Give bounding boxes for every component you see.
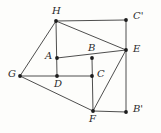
edge-H-Cprime	[56, 20, 126, 21]
vertex-label-b: B	[88, 43, 95, 53]
vertex-label-cp: C'	[133, 11, 143, 21]
vertex-label-e: E	[133, 44, 140, 54]
vertex-dot-a	[55, 56, 59, 60]
edge-H-D	[56, 21, 57, 76]
vertex-dot-h	[54, 19, 58, 23]
vertex-label-c: C	[97, 69, 105, 79]
vertex-label-f: F	[89, 114, 96, 124]
geometry-figure: HC'ABEGDCFB'	[0, 0, 161, 133]
vertex-label-h: H	[52, 6, 61, 16]
vertex-dot-e	[124, 48, 128, 52]
edge-B-F	[92, 58, 93, 111]
vertex-dot-b	[90, 56, 94, 60]
vertex-dot-g	[18, 74, 22, 78]
vertex-dot-cp	[124, 18, 128, 22]
vertex-dot-bp	[124, 110, 128, 114]
vertex-label-d: D	[54, 79, 62, 89]
vertex-label-a: A	[45, 51, 52, 61]
edge-H-G	[20, 21, 56, 76]
vertex-dot-layer	[18, 18, 128, 114]
vertex-label-bp: B'	[133, 104, 143, 114]
vertex-label-g: G	[8, 69, 16, 79]
vertex-dot-c	[90, 74, 94, 78]
edge-E-F	[93, 50, 126, 111]
edge-layer	[20, 20, 126, 112]
edge-F-Bprime	[93, 111, 126, 112]
